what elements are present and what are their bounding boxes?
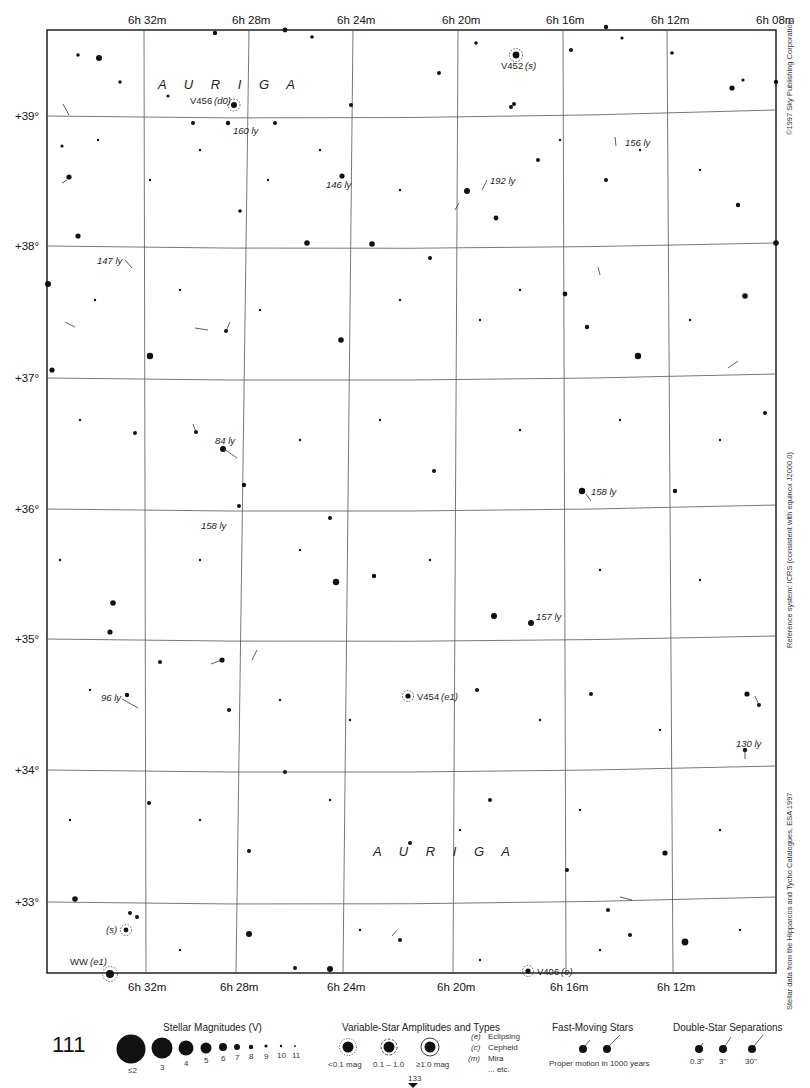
dec-label: +34°	[15, 764, 39, 776]
magnitude-label: 8	[249, 1052, 254, 1061]
dec-labels: +39° +38° +37° +36° +35° +34° +33°	[15, 110, 39, 908]
variable-star-type: (d0)	[214, 95, 231, 106]
dec-label: +37°	[15, 372, 39, 384]
next-page-arrow-icon[interactable]	[408, 1083, 418, 1088]
legend-title: Stellar Magnitudes (V)	[163, 1022, 262, 1033]
distance-label: 147 ly	[97, 255, 124, 266]
variable-star-type: (s)	[106, 924, 117, 935]
legend-caption: Proper motion in 1000 years	[549, 1059, 650, 1068]
distance-label: 96 ly	[101, 692, 122, 703]
variable-star-type: (e)	[561, 966, 573, 977]
magnitude-label: 9	[264, 1052, 269, 1061]
type-label: ... etc.	[488, 1065, 510, 1074]
variable-star-label: V452	[501, 60, 523, 71]
ra-label: 6h 24m	[337, 14, 375, 26]
distance-label: 158 ly	[591, 486, 618, 497]
separation-label: 3"	[719, 1057, 726, 1066]
ra-label: 6h 20m	[442, 14, 480, 26]
separation-label: 0.3"	[690, 1057, 704, 1066]
amplitude-label: <0.1 mag	[328, 1060, 362, 1069]
type-label: Cepheid	[488, 1043, 518, 1052]
ra-label: 6h 16m	[546, 14, 584, 26]
amplitude-label: ≥1.0 mag	[416, 1060, 449, 1069]
variable-star-label: WW	[70, 956, 88, 967]
constellation-label: A U R I G A	[157, 77, 302, 92]
distance-label: 157 ly	[536, 611, 563, 622]
magnitude-label: 5	[204, 1056, 209, 1065]
magnitude-label: 7	[235, 1053, 240, 1062]
legend-title: Fast-Moving Stars	[552, 1022, 633, 1033]
dec-label: +36°	[15, 503, 39, 515]
variable-star-type: (e1)	[90, 956, 107, 967]
ra-label: 6h 12m	[651, 14, 689, 26]
star-chart: 6h 32m 6h 28m 6h 24m 6h 20m 6h 16m 6h 12…	[0, 0, 810, 1088]
dec-label: +33°	[15, 896, 39, 908]
ra-gridlines	[144, 30, 673, 973]
constellation-label: A U R I G A	[372, 844, 517, 859]
legend-variables: Variable-Star Amplitudes and Types <0.1 …	[328, 1022, 520, 1088]
legend-fast-moving: Fast-Moving Stars Proper motion in 1000 …	[549, 1022, 650, 1068]
distance-label: 160 ly	[233, 125, 260, 136]
ra-label: 6h 32m	[128, 981, 166, 993]
ra-label: 6h 28m	[232, 14, 270, 26]
magnitude-label: ≤2	[128, 1066, 137, 1075]
distance-label: 192 ly	[490, 175, 517, 186]
distance-label: 156 ly	[625, 137, 652, 148]
magnitude-label: 11	[292, 1051, 301, 1060]
proper-motion-vectors	[62, 104, 759, 936]
distance-label: 130 ly	[736, 738, 763, 749]
ra-label: 6h 28m	[220, 981, 258, 993]
variable-star-type: (s)	[525, 60, 536, 71]
copyright-note: ©1997 Sky Publishing Corporation	[785, 20, 794, 135]
next-page-ref[interactable]: 133	[408, 1074, 422, 1083]
ra-label: 6h 20m	[437, 981, 475, 993]
variable-star-label: V454	[417, 691, 439, 702]
ra-labels-top: 6h 32m 6h 28m 6h 24m 6h 20m 6h 16m 6h 12…	[128, 14, 794, 26]
magnitude-label: 3	[160, 1063, 165, 1072]
dec-label: +38°	[15, 240, 39, 252]
distance-label: 146 ly	[326, 179, 353, 190]
type-code: (e)	[471, 1032, 481, 1041]
chart-frame	[47, 30, 776, 973]
ra-labels-bottom: 6h 32m 6h 28m 6h 24m 6h 20m 6h 16m 6h 12…	[128, 981, 695, 993]
ra-label: 6h 24m	[327, 981, 365, 993]
variable-star-label: V456	[190, 95, 212, 106]
amplitude-label: 0.1 – 1.0	[373, 1060, 405, 1069]
ra-label: 6h 32m	[128, 14, 166, 26]
variable-star-markers	[103, 49, 534, 982]
legend-title: Double-Star Separations	[673, 1022, 783, 1033]
distance-label: 158 ly	[201, 520, 228, 531]
dec-label: +39°	[15, 110, 39, 122]
type-label: Mira	[488, 1054, 504, 1063]
variable-star-label: V406	[537, 966, 559, 977]
star-field	[45, 25, 779, 972]
page-number: 111	[52, 1032, 85, 1057]
source-note: Stellar data from the Hipparcos and Tych…	[785, 793, 794, 1011]
distance-label: 84 ly	[215, 435, 236, 446]
ra-label: 6h 12m	[657, 981, 695, 993]
magnitude-label: 4	[184, 1059, 189, 1068]
reference-note: Reference system: ICRS (consistent with …	[785, 452, 794, 648]
type-label: Eclipsing	[488, 1032, 520, 1041]
variable-star-type: (e1)	[441, 691, 458, 702]
dec-gridlines	[47, 110, 776, 904]
magnitude-label: 6	[221, 1054, 226, 1063]
legend-doubles: Double-Star Separations 0.3" 3" 30"	[673, 1022, 783, 1066]
dec-label: +35°	[15, 633, 39, 645]
magnitude-label: 10	[277, 1051, 286, 1060]
separation-label: 30"	[745, 1057, 757, 1066]
type-code: (m)	[468, 1054, 480, 1063]
type-code: (c)	[471, 1043, 481, 1052]
ra-label: 6h 16m	[550, 981, 588, 993]
chart-annotations: V456 (d0) V452 (s) V454 (e1) V406 (e) WW…	[70, 60, 763, 977]
legend-magnitudes: Stellar Magnitudes (V) ≤2 3 4 5 6 7 8 9 …	[117, 1022, 301, 1075]
